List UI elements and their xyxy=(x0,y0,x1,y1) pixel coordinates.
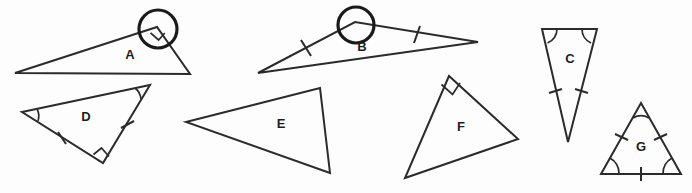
triangle-c-group: C xyxy=(542,29,597,142)
triangle-c-outline xyxy=(542,29,597,142)
triangle-b-tick-right xyxy=(414,26,420,43)
triangle-c-angle-arc-right xyxy=(582,29,591,43)
triangle-b-group: B xyxy=(258,7,478,73)
triangle-d-angle-arc-left xyxy=(37,109,39,121)
triangle-e-outline xyxy=(186,88,330,173)
triangle-g-label: G xyxy=(636,139,646,154)
triangle-d-group: D xyxy=(22,85,150,163)
triangle-b-tick-left xyxy=(301,40,311,56)
triangle-g-angle-arc-bottomright xyxy=(663,158,672,174)
triangle-d-label: D xyxy=(81,109,90,124)
triangle-f-label: F xyxy=(457,119,465,134)
triangle-g-group: G xyxy=(601,103,681,181)
triangle-e-group: E xyxy=(186,88,330,173)
triangle-g-angle-arc-top xyxy=(633,116,649,118)
triangle-b-label: B xyxy=(357,39,366,54)
triangle-c-label: C xyxy=(565,51,575,66)
triangle-d-angle-arc-topright xyxy=(135,88,141,99)
triangle-c-angle-arc-left xyxy=(548,29,558,43)
triangle-e-label: E xyxy=(277,116,286,131)
triangle-f-group: F xyxy=(405,76,518,178)
triangle-g-angle-arc-bottomleft xyxy=(610,158,619,174)
triangle-b-outline xyxy=(258,22,478,73)
triangle-a-label: A xyxy=(125,47,135,62)
triangle-worksheet-figure: A B C xyxy=(0,0,692,193)
triangle-a-group: A xyxy=(15,10,190,74)
